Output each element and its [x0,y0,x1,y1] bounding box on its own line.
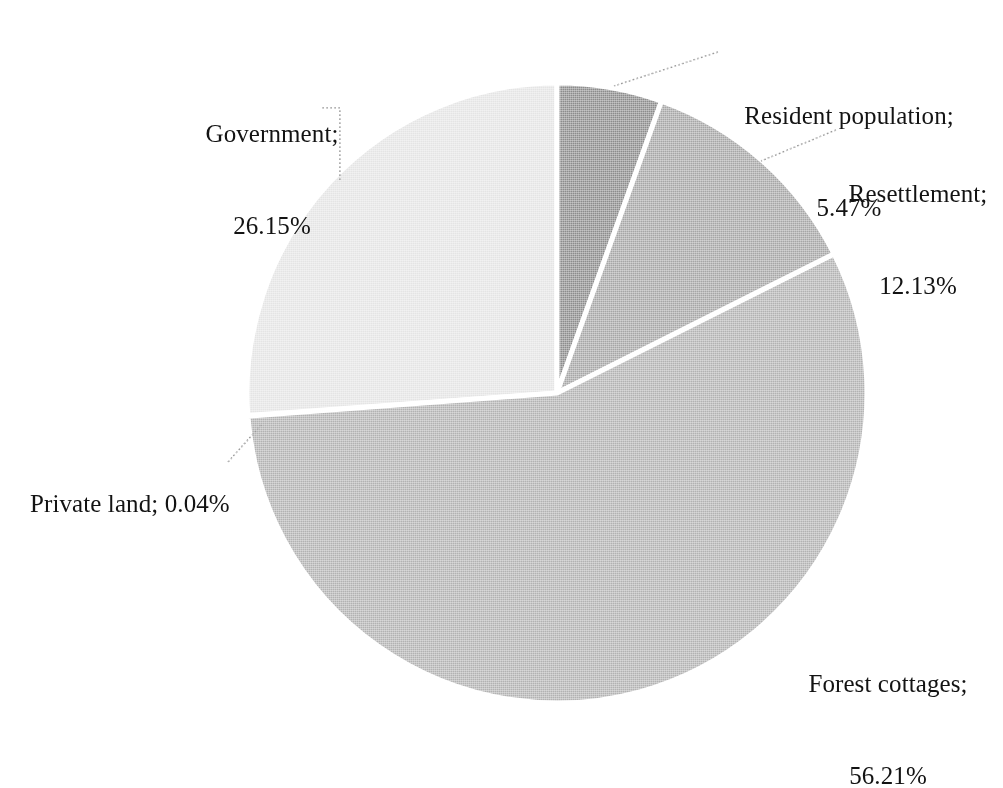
pie-label-private-land-name-value: Private land; 0.04% [30,489,260,520]
pie-label-forest-cottages-name: Forest cottages; [788,669,988,700]
pie-label-government-name: Government; [198,119,346,150]
pie-label-private-land: Private land; 0.04% [30,428,260,581]
leader-line-resident-population [614,52,718,86]
pie-label-forest-cottages: Forest cottages; 56.21% [788,608,988,788]
pie-label-resettlement-name: Resettlement; [838,179,998,210]
pie-label-government-value: 26.15% [198,211,346,242]
pie-label-resettlement-value: 12.13% [838,271,998,302]
pie-label-forest-cottages-value: 56.21% [788,761,988,788]
pie-label-resettlement: Resettlement; 12.13% [838,118,998,362]
pie-label-government: Government; 26.15% [198,58,346,302]
